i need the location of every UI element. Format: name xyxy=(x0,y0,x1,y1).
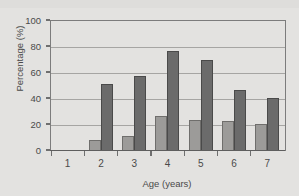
x-tick-mark xyxy=(184,151,185,156)
bar-group xyxy=(84,20,117,150)
bar xyxy=(255,124,267,150)
x-tick xyxy=(217,151,250,157)
bar-group xyxy=(51,20,84,150)
y-tick-label: 0 xyxy=(36,146,46,156)
bar-group xyxy=(118,20,151,150)
x-tick-mark xyxy=(84,151,85,156)
x-tick xyxy=(84,151,117,157)
x-tick-mark xyxy=(117,151,118,156)
x-tick-label: 4 xyxy=(151,158,184,169)
x-tick-mark xyxy=(150,151,151,156)
bar xyxy=(155,116,167,150)
bar xyxy=(201,60,213,150)
y-tick-label: 100 xyxy=(25,16,46,26)
x-tick xyxy=(184,151,217,157)
bar xyxy=(267,98,279,150)
bar-series-container xyxy=(51,20,284,150)
bar xyxy=(234,90,246,150)
y-tick-label: 60 xyxy=(30,68,46,78)
x-tick-label: 1 xyxy=(51,158,84,169)
y-tick-label: 40 xyxy=(30,94,46,104)
x-tick-label: 2 xyxy=(84,158,117,169)
x-tick-mark xyxy=(51,151,52,156)
x-tick xyxy=(251,151,284,157)
bar xyxy=(189,120,201,150)
y-tick-label: 20 xyxy=(30,120,46,130)
bar-group xyxy=(217,20,250,150)
y-tick-label: 80 xyxy=(30,42,46,52)
bar xyxy=(134,76,146,150)
x-axis-ticks xyxy=(51,151,284,157)
x-tick xyxy=(151,151,184,157)
x-tick-label: 3 xyxy=(118,158,151,169)
x-tick-mark xyxy=(250,151,251,156)
bar-group xyxy=(184,20,217,150)
chart-figure: Percentage (%) 020406080100 1234567 Age … xyxy=(0,8,299,196)
x-tick-label: 7 xyxy=(251,158,284,169)
x-tick xyxy=(51,151,84,157)
bar-group xyxy=(251,20,284,150)
bar-group xyxy=(151,20,184,150)
x-tick-mark xyxy=(217,151,218,156)
bar xyxy=(101,84,113,150)
x-axis-title: Age (years) xyxy=(50,178,284,189)
x-axis-tick-labels: 1234567 xyxy=(51,158,284,169)
bar xyxy=(222,121,234,150)
bar xyxy=(89,140,101,150)
x-tick xyxy=(118,151,151,157)
x-tick-label: 6 xyxy=(217,158,250,169)
x-tick-label: 5 xyxy=(184,158,217,169)
y-axis-ticks: 020406080100 xyxy=(0,20,50,150)
bar xyxy=(122,136,134,150)
bar xyxy=(167,51,179,150)
